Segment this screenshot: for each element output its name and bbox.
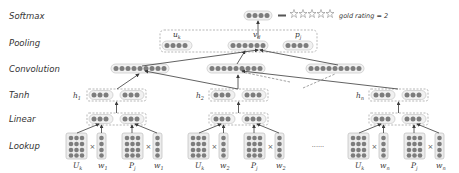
pool-label-vd: vd: [253, 30, 260, 40]
linear-vector-2: [209, 113, 268, 125]
lookup-vector-wn-b: [435, 133, 444, 159]
lookup-vector-wn-a: [379, 133, 388, 159]
label-uk-1: Uk: [73, 161, 82, 171]
label-uk-n: Uk: [355, 161, 364, 171]
lookup-vector-w1-b: [153, 133, 162, 159]
arrow-uk1-to-linear1: [77, 124, 99, 133]
times-symbol: ×: [428, 143, 434, 151]
conv-unit-3: [306, 64, 364, 73]
tanh-label-hn: hn: [356, 91, 364, 101]
linear-vector-1: [87, 113, 146, 125]
gold-rating-label: gold rating = 2: [339, 12, 388, 20]
layer-label-tanh: Tanh: [9, 90, 29, 100]
label-wn-a: wn: [380, 161, 390, 171]
lookup-matrix-pj-n: [404, 133, 425, 159]
arrow-h2-to-conv1: [145, 71, 238, 89]
times-symbol: ×: [212, 143, 218, 151]
arrow-h1-to-conv1: [117, 74, 139, 89]
pool-vector-uk: [162, 41, 192, 50]
star-rating-icon: [290, 10, 334, 18]
arrow-ukn-to-linearn: [359, 124, 381, 133]
label-w2-a: w2: [220, 161, 230, 171]
arrow-w1b-to-linear1: [135, 124, 157, 133]
linear-vector-n: [369, 113, 428, 125]
lookup-matrix-uk-n: [348, 133, 369, 159]
softmax-output-vector: [244, 11, 272, 20]
lookup-matrix-uk-1: [66, 133, 87, 159]
label-pj-1: Pj: [128, 161, 136, 172]
equivalence-dash-icon: [278, 15, 286, 17]
ellipsis: ......: [312, 141, 324, 149]
tanh-vector-h2: [209, 89, 268, 101]
label-pj-2: Pj: [250, 161, 258, 172]
layer-label-softmax: Softmax: [9, 11, 45, 21]
arrow-hn-to-conv2: [242, 71, 398, 89]
lookup-matrix-pj-2: [244, 133, 265, 159]
arrow-w2b-to-linear2: [257, 124, 279, 133]
architecture-diagram: Softmax Pooling Convolution Tanh Linear …: [0, 0, 459, 173]
label-w1-b: w1: [154, 161, 164, 171]
layer-label-pooling: Pooling: [9, 38, 41, 48]
pool-label-pj: pj: [295, 30, 302, 41]
times-symbol: ×: [372, 143, 378, 151]
lookup-matrix-uk-2: [188, 133, 209, 159]
tanh-vector-h1: [87, 89, 146, 101]
lookup-vector-w2-a: [219, 133, 228, 159]
label-w1-a: w1: [98, 161, 108, 171]
pool-vector-vd: [228, 41, 268, 50]
conv-unit-2: [207, 64, 265, 73]
label-uk-2: Uk: [195, 161, 204, 171]
pool-vector-pj: [283, 41, 313, 50]
layer-label-lookup: Lookup: [9, 141, 40, 151]
lookup-vector-w1-a: [97, 133, 106, 159]
tanh-label-h2: h2: [196, 91, 204, 101]
times-symbol: ×: [90, 143, 96, 151]
label-pj-n: Pj: [410, 161, 418, 172]
times-symbol: ×: [268, 143, 274, 151]
lookup-vector-w2-b: [275, 133, 284, 159]
lookup-matrix-pj-1: [122, 133, 143, 159]
arrow-uk2-to-linear2: [199, 124, 221, 133]
times-symbol: ×: [146, 143, 152, 151]
layer-label-convolution: Convolution: [9, 64, 60, 74]
arrow-wnb-to-linearn: [417, 124, 439, 133]
layer-label-linear: Linear: [9, 114, 36, 124]
tanh-vector-hn: [369, 89, 428, 101]
conv-unit-1: [111, 64, 169, 73]
pool-label-uk: uk: [173, 30, 181, 40]
label-w2-b: w2: [276, 161, 286, 171]
tanh-label-h1: h1: [73, 91, 81, 101]
label-wn-b: wn: [436, 161, 446, 171]
